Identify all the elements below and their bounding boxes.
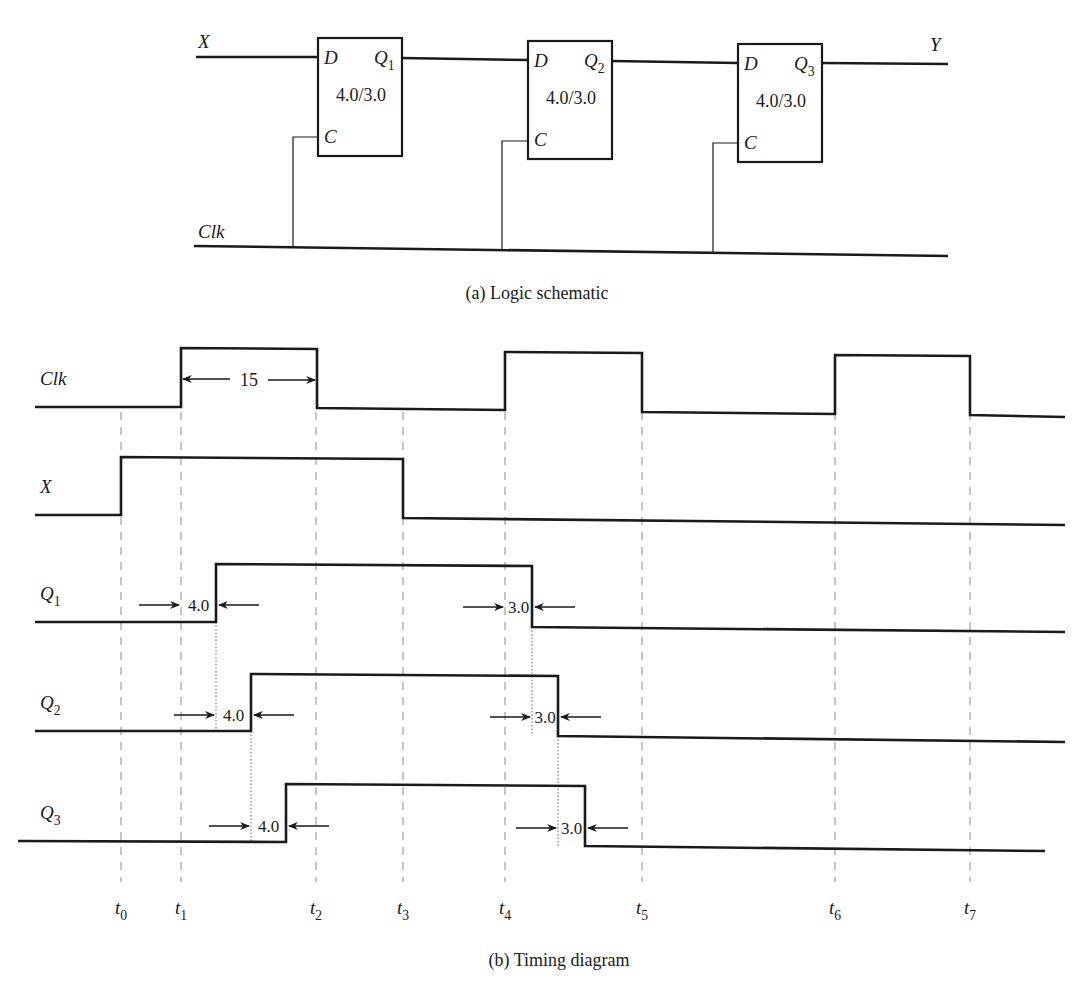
signal-label-clk: Clk [40,368,67,389]
delay-label: 4.0/3.0 [546,88,596,108]
timing-diagram: t0t1t2t3t4t5t6t7 ClkXQ1Q2Q3 4.03.04.03.0… [18,348,1065,971]
delay-annotation: 3.0 [463,598,575,617]
input-label-x: X [197,31,211,52]
d-flip-flop-3: DQ34.0/3.0C [738,44,822,162]
output-label-y: Y [930,34,943,55]
figure: X Y Clk DQ14.0/3.0CDQ24.0/3.0CDQ34.0/3.0… [0,0,1075,988]
delay-value: 3.0 [508,598,529,617]
signals [18,348,1065,851]
delay-annotation: 4.0 [174,706,294,725]
clock-width-annotation: 15 [183,370,315,390]
clock-wire [194,246,948,256]
delay-annotation: 3.0 [516,819,628,838]
clock-branch-ff3 [713,143,738,253]
wire-q2-d3 [612,61,738,63]
time-marker-label-t6: t6 [829,897,841,923]
delay-guides [216,622,558,846]
time-marker-label-t7: t7 [964,897,976,923]
signal-label-x: X [39,476,53,497]
time-markers: t0t1t2t3t4t5t6t7 [115,412,976,923]
delay-label: 4.0/3.0 [756,91,806,111]
wire-q1-d2 [402,58,528,60]
logic-schematic: X Y Clk DQ14.0/3.0CDQ24.0/3.0CDQ34.0/3.0… [194,31,948,304]
time-marker-label-t3: t3 [397,897,409,923]
waveform-x [35,457,1065,525]
output-wire-y [822,63,948,64]
d-flip-flop-1: DQ14.0/3.0C [318,38,402,156]
delay-annotation: 3.0 [490,708,601,727]
time-marker-label-t1: t1 [175,897,187,923]
time-marker-label-t4: t4 [499,897,511,923]
time-marker-label-t0: t0 [115,897,127,923]
d-flip-flop-2: DQ24.0/3.0C [528,41,612,159]
delay-value: 4.0 [223,706,244,725]
delay-value: 3.0 [561,819,582,838]
waveform-q3 [18,784,1045,851]
clock-input-label: C [534,129,547,150]
delay-value: 4.0 [188,596,209,615]
d-input-label: D [533,50,548,71]
d-input-label: D [323,47,338,68]
clock-label: Clk [198,221,225,242]
d-input-label: D [743,53,758,74]
schematic-caption: (a) Logic schematic [466,283,609,304]
flip-flops: DQ14.0/3.0CDQ24.0/3.0CDQ34.0/3.0C [318,38,822,162]
clock-width-label: 15 [240,370,258,390]
clock-branch-ff1 [293,137,318,247]
signal-label-q3: Q3 [40,802,61,828]
delay-annotations: 4.03.04.03.04.03.0 [139,596,628,838]
time-marker-label-t2: t2 [310,897,322,923]
timing-caption: (b) Timing diagram [488,950,629,971]
delay-annotation: 4.0 [139,596,259,615]
signal-label-q1: Q1 [40,583,61,609]
delay-value: 3.0 [534,708,555,727]
waveform-clk [35,348,1065,417]
clock-branch-ff2 [502,141,528,250]
sequential-circuit-figure: X Y Clk DQ14.0/3.0CDQ24.0/3.0CDQ34.0/3.0… [0,0,1075,988]
delay-value: 4.0 [258,817,279,836]
signal-label-q2: Q2 [40,692,61,718]
clock-input-label: C [744,132,757,153]
clock-input-label: C [324,126,337,147]
delay-annotation: 4.0 [209,817,329,836]
signal-labels: ClkXQ1Q2Q3 [39,368,67,828]
delay-label: 4.0/3.0 [336,85,386,105]
time-marker-label-t5: t5 [636,897,648,923]
